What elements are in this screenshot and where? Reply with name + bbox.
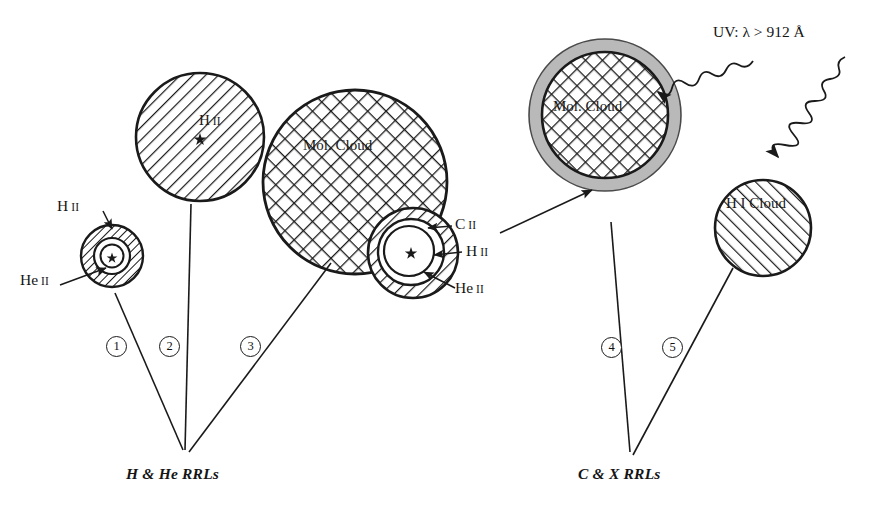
object-3-embedded-region <box>368 208 462 298</box>
figure-canvas: UV: λ > 912 Å HII HeII HII Mol. Cloud CI… <box>0 0 885 516</box>
roman-numeral-ii: II <box>41 275 49 287</box>
c-ii-label-object3-text: C <box>455 215 465 232</box>
c-ii-label-object3: CII <box>455 216 476 232</box>
uv-radiation-label: UV: λ > 912 Å <box>713 24 805 40</box>
roman-numeral-ii: II <box>476 283 484 295</box>
line-from-object-5 <box>633 268 733 455</box>
line-from-object-1 <box>115 293 183 450</box>
roman-numeral-ii: II <box>213 115 221 127</box>
h-ii-label-object2: HII <box>199 112 221 128</box>
line-from-object-3 <box>189 263 331 452</box>
object-4-pdr-molecular-cloud <box>529 39 681 191</box>
h-ii-label-object3-text: H <box>466 242 477 259</box>
he-ii-label-object1: HeII <box>20 272 49 288</box>
marker-number-1[interactable]: 1 <box>106 336 127 357</box>
he-ii-label-object1-text: He <box>20 271 38 288</box>
footer-c-x-rrls: C & X RRLs <box>578 466 661 482</box>
mol-cloud-caption-object3: Mol. Cloud <box>303 138 372 153</box>
marker-number-4[interactable]: 4 <box>601 337 622 358</box>
h-ii-label-object1: HII <box>57 198 79 214</box>
diagram-svg <box>0 0 885 516</box>
footer-h-he-rrls: H & He RRLs <box>126 466 219 482</box>
object-2-hii-region <box>136 73 264 201</box>
marker-number-2[interactable]: 2 <box>159 336 180 357</box>
h-ii-label-object3: HII <box>466 243 488 259</box>
line-from-object-2 <box>185 204 191 450</box>
uv-wavy-arrow-right <box>772 57 845 157</box>
roman-numeral-ii: II <box>480 246 488 258</box>
hi-cloud-caption-object5: H I Cloud <box>726 196 786 211</box>
he-ii-label-object3-text: He <box>455 279 473 296</box>
leader-c-ii-to-pdr-shell <box>500 190 592 233</box>
mol-cloud-caption-object4: Mol. Cloud <box>553 99 622 114</box>
marker-number-5[interactable]: 5 <box>662 337 683 358</box>
roman-numeral-ii: II <box>468 219 476 231</box>
object-1-hii-region <box>60 211 143 287</box>
he-ii-label-object3: HeII <box>455 280 484 296</box>
h-ii-label-object1-text: H <box>57 197 68 214</box>
roman-numeral-ii: II <box>71 201 79 213</box>
h-ii-label-object2-text: H <box>199 112 210 128</box>
marker-number-3[interactable]: 3 <box>240 336 261 357</box>
